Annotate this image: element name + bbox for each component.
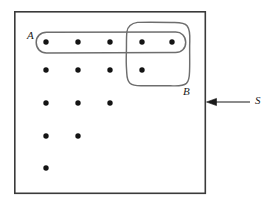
set-a-label: A xyxy=(27,30,34,41)
dot xyxy=(107,100,112,105)
figure-canvas: A B S xyxy=(0,0,276,208)
universe-s-label: S xyxy=(255,95,261,106)
set-diagram-svg xyxy=(0,0,276,208)
pointer-arrowhead-icon xyxy=(207,98,217,105)
dot xyxy=(43,133,48,138)
dot xyxy=(107,39,112,44)
dot xyxy=(75,133,80,138)
dot xyxy=(75,100,80,105)
dot xyxy=(139,67,144,72)
dot xyxy=(107,67,112,72)
dot-row-4 xyxy=(43,133,80,138)
dot xyxy=(75,39,80,44)
dot-row-2 xyxy=(43,67,144,72)
dot xyxy=(43,39,48,44)
set-b-label: B xyxy=(183,86,190,97)
dot-row-5 xyxy=(43,165,48,170)
dot xyxy=(139,39,144,44)
dot xyxy=(43,67,48,72)
dot-row-3 xyxy=(43,100,112,105)
dot xyxy=(43,100,48,105)
dot xyxy=(169,39,174,44)
dot xyxy=(43,165,48,170)
dot xyxy=(75,67,80,72)
dot-row-1 xyxy=(43,39,174,44)
